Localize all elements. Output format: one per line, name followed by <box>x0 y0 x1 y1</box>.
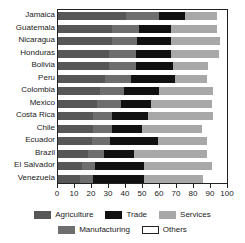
bar-segment-manufacturing <box>88 150 103 158</box>
bar-row <box>58 50 227 58</box>
x-axis-tick-label: 100 <box>220 189 233 198</box>
bar-segment-trade <box>93 175 144 183</box>
bar-row <box>58 162 227 170</box>
bar-segment-others <box>207 150 227 158</box>
stacked-bar-chart-figure: JamaicaGuatemalaNicaraguaHondurasBolivia… <box>0 0 245 243</box>
y-axis-label-honduras: Honduras <box>0 48 55 57</box>
bar-segment-manufacturing <box>109 62 136 70</box>
legend-swatch-agriculture <box>34 211 51 219</box>
x-axis-tick <box>125 184 126 188</box>
bar-segment-others <box>217 12 227 20</box>
y-axis-label-chile: Chile <box>0 123 55 132</box>
legend-label-trade: Trade <box>126 210 147 219</box>
bar-segment-trade <box>112 125 142 133</box>
bar-row <box>58 112 227 120</box>
bar-segment-agriculture <box>58 37 112 45</box>
x-axis-tick <box>159 184 160 188</box>
bar-segment-others <box>207 75 227 83</box>
bar-segment-trade <box>95 162 144 170</box>
y-axis-label-colombia: Colombia <box>0 85 55 94</box>
bar-row <box>58 175 227 183</box>
bar-segment-trade <box>121 100 151 108</box>
legend-swatch-services <box>159 211 176 219</box>
bar-segment-trade <box>136 50 171 58</box>
bar-segment-others <box>208 62 227 70</box>
bar-segment-agriculture <box>58 125 93 133</box>
x-axis-tick-label: 80 <box>189 189 198 198</box>
bar-row <box>58 87 227 95</box>
bar-segment-trade <box>124 87 159 95</box>
x-axis-tick-label: 40 <box>121 189 130 198</box>
bar-segment-services <box>144 175 203 183</box>
bar-segment-manufacturing <box>100 87 124 95</box>
bar-row <box>58 137 227 145</box>
x-axis-tick <box>210 184 211 188</box>
x-axis-tick <box>57 184 58 188</box>
legend-item-trade[interactable]: Trade <box>105 210 147 219</box>
bar-segment-manufacturing <box>112 25 139 33</box>
bar-segment-agriculture <box>58 87 100 95</box>
bar-segment-agriculture <box>58 175 80 183</box>
y-axis-label-bolivia: Bolivia <box>0 60 55 69</box>
bar-segment-services <box>148 112 214 120</box>
x-axis-tick <box>142 184 143 188</box>
x-axis: 0102030405060708090100 <box>57 184 228 204</box>
bar-segment-others <box>202 125 227 133</box>
bar-segment-trade <box>136 62 173 70</box>
bar-row <box>58 37 227 45</box>
bar-segment-trade <box>110 137 157 145</box>
bar-segment-manufacturing <box>105 75 130 83</box>
bar-segment-manufacturing <box>112 37 137 45</box>
y-axis-label-costa-rica: Costa Rica <box>0 110 55 119</box>
x-axis-tick <box>193 184 194 188</box>
bar-segment-agriculture <box>58 75 105 83</box>
bar-row <box>58 150 227 158</box>
bar-segment-services <box>175 75 207 83</box>
bar-segment-others <box>213 112 227 120</box>
x-axis-tick <box>74 184 75 188</box>
x-axis-tick <box>227 184 228 188</box>
legend-item-agriculture[interactable]: Agriculture <box>34 210 93 219</box>
legend-item-services[interactable]: Services <box>159 210 211 219</box>
x-axis-tick-label: 70 <box>172 189 181 198</box>
bar-row <box>58 12 227 20</box>
chart-legend: AgricultureTradeServices ManufacturingOt… <box>0 207 245 241</box>
legend-label-services: Services <box>180 210 211 219</box>
bar-segment-agriculture <box>58 100 97 108</box>
legend-label-agriculture: Agriculture <box>55 210 93 219</box>
plot-area <box>57 9 228 184</box>
y-axis-label-brazil: Brazil <box>0 148 55 157</box>
bar-segment-manufacturing <box>93 112 112 120</box>
y-axis-label-peru: Peru <box>0 73 55 82</box>
bar-segment-trade <box>137 37 171 45</box>
x-axis-tick-label: 30 <box>104 189 113 198</box>
legend-label-manufacturing: Manufacturing <box>79 225 130 234</box>
legend-swatch-trade <box>105 211 122 219</box>
y-axis-label-guatemala: Guatemala <box>0 23 55 32</box>
bar-segment-services <box>151 100 212 108</box>
x-axis-tick-label: 20 <box>87 189 96 198</box>
bar-segment-others <box>219 50 227 58</box>
bar-segment-services <box>171 37 220 45</box>
bar-segment-manufacturing <box>92 137 111 145</box>
bar-row <box>58 25 227 33</box>
y-axis-label-jamaica: Jamaica <box>0 10 55 19</box>
bar-row <box>58 100 227 108</box>
bar-segment-agriculture <box>58 150 88 158</box>
bar-segment-others <box>217 25 227 33</box>
x-axis-tick-label: 50 <box>138 189 147 198</box>
bar-segment-manufacturing <box>109 50 136 58</box>
legend-item-manufacturing[interactable]: Manufacturing <box>58 225 130 234</box>
bar-row <box>58 62 227 70</box>
y-axis-label-mexico: Mexico <box>0 98 55 107</box>
bar-segment-manufacturing <box>97 100 121 108</box>
bar-segment-agriculture <box>58 25 112 33</box>
x-axis-tick-label: 60 <box>155 189 164 198</box>
x-axis-tick-label: 10 <box>70 189 79 198</box>
bar-segment-manufacturing <box>126 12 160 20</box>
bar-segment-agriculture <box>58 12 126 20</box>
legend-swatch-others <box>142 226 159 234</box>
legend-item-others[interactable]: Others <box>142 225 187 234</box>
bar-segment-services <box>134 150 207 158</box>
bar-segment-manufacturing <box>82 162 96 170</box>
